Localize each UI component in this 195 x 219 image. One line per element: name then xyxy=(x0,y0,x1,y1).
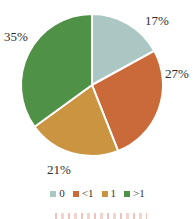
legend-label: <1 xyxy=(82,188,94,199)
slice-label-0: 17% xyxy=(145,14,169,28)
legend-item-1: 1 xyxy=(102,188,117,199)
chart-legend: 0 <1 1 >1 xyxy=(0,188,195,199)
legend-swatch-icon xyxy=(50,191,56,197)
legend-item-gt1: >1 xyxy=(124,188,145,199)
legend-label: >1 xyxy=(133,188,145,199)
legend-label: 0 xyxy=(59,188,65,199)
legend-swatch-icon xyxy=(124,191,130,197)
slice-label-lt1: 27% xyxy=(165,67,189,81)
legend-swatch-icon xyxy=(73,191,79,197)
slice-label-gt1: 35% xyxy=(4,30,28,44)
legend-label: 1 xyxy=(111,188,117,199)
legend-swatch-icon xyxy=(102,191,108,197)
pie-chart-figure: 17% 27% 21% 35% 0 <1 1 >1 xyxy=(0,0,195,219)
slice-label-1: 21% xyxy=(47,163,71,177)
legend-item-lt1: <1 xyxy=(73,188,94,199)
pie-chart xyxy=(0,0,195,219)
legend-item-0: 0 xyxy=(50,188,65,199)
figure-caption-cropped xyxy=(55,213,147,219)
